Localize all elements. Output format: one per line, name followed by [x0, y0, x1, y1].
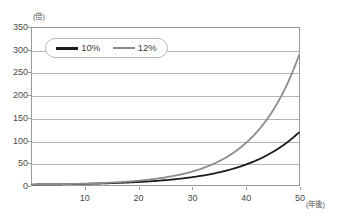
compound-growth-line-chart: (倍) (年後) 050100150200250300350 102030405… — [0, 0, 341, 223]
x-tick-label: 50 — [288, 194, 312, 203]
legend-entry-12pct[interactable]: 12% — [113, 43, 157, 53]
x-tick-label: 30 — [180, 194, 204, 203]
x-tick-mark — [192, 187, 193, 190]
legend-entry-10pct[interactable]: 10% — [56, 43, 100, 53]
legend-swatch-12 — [113, 47, 135, 50]
chart-legend: 10%12% — [45, 38, 168, 58]
series-line-12pct — [32, 55, 299, 184]
legend-label: 10% — [81, 43, 100, 53]
x-tick-label: 20 — [127, 194, 151, 203]
x-tick-label: 40 — [234, 194, 258, 203]
x-tick-mark — [85, 187, 86, 190]
legend-label: 12% — [138, 43, 157, 53]
x-tick-mark — [300, 187, 301, 190]
x-tick-mark — [139, 187, 140, 190]
legend-swatch-10 — [56, 47, 78, 50]
x-tick-mark — [246, 187, 247, 190]
x-tick-label: 10 — [73, 194, 97, 203]
